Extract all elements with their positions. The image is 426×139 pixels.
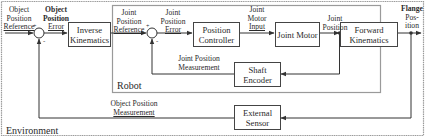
sum1-plus-sign: + (33, 22, 36, 31)
environment-label: Environment (6, 125, 58, 136)
sum2-minus-sign: - (156, 37, 158, 46)
joint-position-label: Joint Position (320, 15, 350, 32)
label-line: Reference (111, 26, 147, 35)
sum2-plus-sign: + (146, 22, 149, 31)
label-line: Reference (2, 23, 36, 32)
label-line: Error (41, 23, 71, 32)
inverse-kinematics-block: Inverse Kinematics (68, 22, 111, 47)
joint-position-measurement-label: Joint Position Measurement (170, 55, 228, 72)
joint-position-error-label: Joint Position Error (158, 9, 188, 35)
label-line: Position (320, 24, 350, 33)
object-position-reference-label: Object Position Reference (2, 6, 36, 32)
label-line: Input (244, 23, 270, 32)
robot-label: Robot (117, 80, 141, 91)
position-controller-block: Position Controller (193, 22, 240, 47)
object-position-measurement-label: Object Position Measurement (105, 100, 163, 117)
external-sensor-block: External Sensor (234, 105, 281, 130)
joint-position-reference-label: Joint Position Reference (111, 9, 147, 35)
joint-motor-input-label: Joint Motor Input (244, 6, 270, 32)
sum1-minus-sign: - (43, 37, 45, 46)
shaft-encoder-block: Shaft Encoder (234, 62, 281, 87)
object-position-error-label: Object Position Error (41, 6, 71, 32)
label-line: Measurement (170, 64, 228, 73)
joint-motor-block: Joint Motor (275, 22, 320, 47)
label-line: Measurement (105, 109, 163, 118)
label-line: Error (158, 26, 188, 35)
flange-position-label: Flange Pos- ition (399, 5, 425, 31)
label-line: ition (399, 22, 425, 31)
